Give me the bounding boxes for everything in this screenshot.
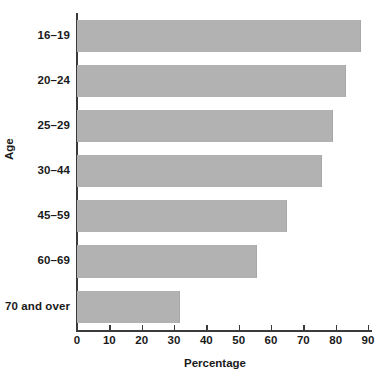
x-axis-title: Percentage xyxy=(0,357,390,369)
x-axis-tick-mark xyxy=(303,325,304,330)
x-axis-tick-text: 20 xyxy=(135,334,148,346)
bar-item xyxy=(77,245,368,277)
x-axis-tick-text: 80 xyxy=(329,334,342,346)
bar xyxy=(77,155,322,187)
bar xyxy=(77,110,333,142)
x-axis-tick-text: 0 xyxy=(74,334,80,346)
x-axis-tick-text: 90 xyxy=(362,334,375,346)
bar-item xyxy=(77,20,368,52)
x-axis-tick-text: 70 xyxy=(297,334,310,346)
x-axis-tick-mark xyxy=(77,325,78,330)
bar-chart: Age 16–1920–2425–2930–4445–5960–6970 and… xyxy=(0,0,390,380)
x-axis-tick-mark xyxy=(336,325,337,330)
y-axis-tick-labels: 16–1920–2425–2930–4445–5960–6970 and ove… xyxy=(0,0,70,380)
x-axis-tick-mark xyxy=(368,325,369,330)
bar-item xyxy=(77,110,368,142)
bar-item xyxy=(77,291,368,323)
y-axis-tick-label: 16–19 xyxy=(38,29,70,41)
y-axis-tick-label: 70 and over xyxy=(5,300,70,312)
x-axis-tick-mark xyxy=(142,325,143,330)
x-axis-tick-text: 50 xyxy=(232,334,245,346)
bar xyxy=(77,200,287,232)
x-axis-tick-mark xyxy=(174,325,175,330)
bar xyxy=(77,65,346,97)
bar-series xyxy=(77,14,368,330)
x-axis-tick-text: 40 xyxy=(200,334,213,346)
bar-item xyxy=(77,65,368,97)
y-axis-tick-label: 30–44 xyxy=(38,164,70,176)
y-axis-tick-label: 45–59 xyxy=(38,209,70,221)
bar-item xyxy=(77,200,368,232)
x-axis-tick-labels: 0102030405060708090 xyxy=(77,330,368,360)
x-axis-tick-text: 60 xyxy=(265,334,278,346)
bar xyxy=(77,291,180,323)
bar-item xyxy=(77,155,368,187)
x-axis-tick-text: 30 xyxy=(168,334,181,346)
bar xyxy=(77,20,361,52)
plot-area xyxy=(77,14,368,330)
x-axis-tick-mark xyxy=(206,325,207,330)
y-axis-tick-label: 60–69 xyxy=(38,254,70,266)
bar xyxy=(77,245,257,277)
x-axis-tick-text: 10 xyxy=(103,334,116,346)
x-axis-tick-mark xyxy=(239,325,240,330)
y-axis-tick-label: 25–29 xyxy=(38,119,70,131)
y-axis-tick-label: 20–24 xyxy=(38,74,70,86)
x-axis-tick-mark xyxy=(271,325,272,330)
x-axis-tick-mark xyxy=(109,325,110,330)
x-axis-title-text: Percentage xyxy=(184,357,246,369)
